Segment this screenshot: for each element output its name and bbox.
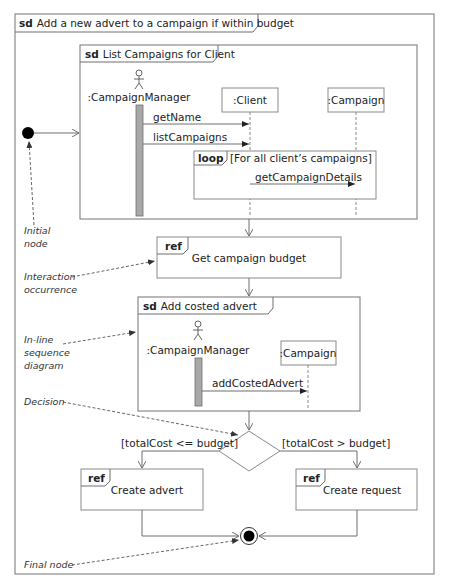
svg-text:sequence: sequence [24,347,70,358]
loop-guard: [For all client’s campaigns] [230,152,372,164]
list-campaigns-frame[interactable]: sdList Campaigns for Client :CampaignMan… [80,45,417,219]
lifeline-campaign-manager-label: :CampaignManager [147,344,251,356]
ref-get-campaign-budget[interactable]: ref Get campaign budget [157,237,341,278]
ref-create-request-label: Create request [323,484,401,496]
activity-diagram-canvas: sdAdd a new advert to a campaign if with… [0,0,449,584]
initial-node[interactable] [22,127,34,139]
ref-create-advert[interactable]: ref Create advert [81,469,203,510]
activation-bar [195,358,202,406]
svg-text:Decision: Decision [24,396,64,407]
ref-keyword: ref [165,240,182,252]
lifeline-campaign-label: :Campaign [280,347,337,359]
message-addcostedadvert-label: addCostedAdvert [212,377,303,389]
svg-text:Final node: Final node [24,559,73,570]
message-getcampaigndetails-label: getCampaignDetails [255,171,362,183]
message-listcampaigns-label: listCampaigns [153,131,227,143]
add-costed-advert-frame[interactable]: sdAdd costed advert :CampaignManager :Ca… [138,297,360,411]
ref-budget-label: Get campaign budget [192,252,306,264]
svg-text:In-line: In-line [24,334,54,345]
ref-keyword: ref [88,472,105,484]
add-costed-title: sdAdd costed advert [143,300,257,312]
svg-text:diagram: diagram [24,360,64,371]
svg-text:node: node [24,238,48,249]
svg-text:Initial: Initial [24,225,51,236]
activation-bar [136,105,143,216]
ref-create-request[interactable]: ref Create request [296,469,417,510]
guard-left: [totalCost <= budget] [121,437,238,449]
message-getname-label: getName [153,111,201,123]
loop-keyword: loop [198,152,224,164]
svg-text:Interaction: Interaction [24,271,76,282]
lifeline-campaign-label: :Campaign [328,94,385,106]
ref-keyword: ref [303,472,320,484]
final-node[interactable] [241,528,258,545]
outer-frame-title: sdAdd a new advert to a campaign if with… [19,17,294,29]
lifeline-campaign-manager-label: :CampaignManager [88,91,192,103]
guard-right: [totalCost > budget] [282,437,390,449]
ref-create-advert-label: Create advert [111,484,183,496]
svg-text:occurrence: occurrence [24,284,77,295]
lifeline-client-label: :Client [233,94,267,106]
list-campaigns-title: sdList Campaigns for Client [85,48,235,60]
